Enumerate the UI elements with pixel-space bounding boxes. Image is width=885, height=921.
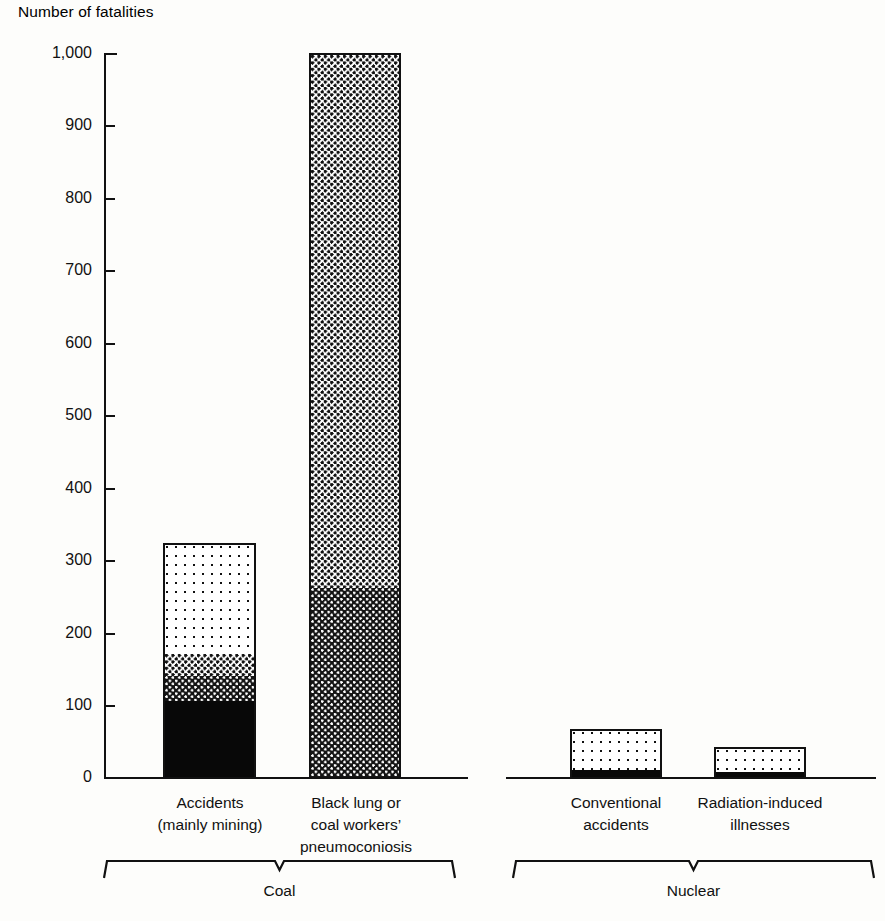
y-tick-label-800: 800 [0, 190, 92, 206]
group-bracket-coal-icon [103, 858, 456, 880]
y-tick-700 [104, 270, 115, 272]
bar-black-lung-pneumoconiosis[interactable] [309, 53, 401, 777]
category-label-line1: Black lung or [266, 792, 446, 814]
group-label-nuclear: Nuclear [512, 882, 875, 900]
bar-segment-light-dot [165, 545, 254, 654]
y-tick-800 [104, 198, 115, 200]
category-label-line1: Radiation-induced [674, 792, 846, 814]
category-label-radiation-illnesses: Radiation-induced illnesses [674, 792, 846, 836]
bar-segment-very-dense-dot [311, 588, 399, 777]
y-tick-600 [104, 343, 115, 345]
y-tick-label-600: 600 [0, 335, 92, 351]
y-tick-label-1000: 1,000 [0, 45, 92, 61]
bar-segment-dense-dot [311, 55, 399, 588]
y-tick-900 [104, 125, 115, 127]
bar-chart: Number of fatalities 1,000 900 800 700 6… [0, 0, 885, 921]
y-tick-label-200: 200 [0, 625, 92, 641]
y-tick-200 [104, 633, 115, 635]
y-tick-label-700: 700 [0, 262, 92, 278]
y-tick-1000 [104, 53, 117, 55]
group-bracket-coal [103, 858, 456, 880]
group-label-coal: Coal [103, 882, 456, 900]
group-bracket-nuclear-icon [512, 858, 875, 880]
x-axis-line-nuclear [506, 777, 876, 779]
category-label-line2: coal workers’ [266, 814, 446, 836]
category-label-black-lung: Black lung or coal workers’ pneumoconios… [266, 792, 446, 858]
x-axis-line-coal [104, 777, 468, 779]
bar-segment-solid-black [716, 772, 804, 777]
y-tick-label-400: 400 [0, 480, 92, 496]
y-axis-title: Number of fatalities [18, 3, 154, 21]
bar-segment-light-dot [572, 731, 660, 770]
y-tick-label-0: 0 [0, 769, 92, 785]
bar-segment-light-dot [716, 749, 804, 772]
bar-radiation-induced-illnesses[interactable] [714, 747, 806, 777]
bar-segment-dense-dot [165, 654, 254, 676]
y-tick-300 [104, 560, 115, 562]
category-label-line2: illnesses [674, 814, 846, 836]
y-tick-label-500: 500 [0, 407, 92, 423]
y-tick-100 [104, 705, 115, 707]
bar-accidents-mainly-mining[interactable] [163, 543, 256, 777]
bar-conventional-accidents[interactable] [570, 729, 662, 777]
y-tick-label-100: 100 [0, 697, 92, 713]
y-tick-400 [104, 488, 115, 490]
y-tick-label-300: 300 [0, 552, 92, 568]
bar-segment-solid-black [572, 770, 660, 777]
category-label-line3: pneumoconiosis [266, 836, 446, 858]
bar-segment-solid-black [165, 701, 254, 777]
y-tick-label-900: 900 [0, 117, 92, 133]
y-tick-500 [104, 415, 115, 417]
group-bracket-nuclear [512, 858, 875, 880]
bar-segment-very-dense-dot [165, 676, 254, 701]
